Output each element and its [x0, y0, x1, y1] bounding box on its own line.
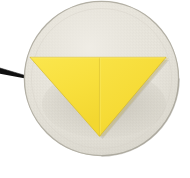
scene-svg — [0, 0, 190, 178]
scene-canvas: Yellow folded triangle napkin on round g… — [0, 0, 190, 178]
